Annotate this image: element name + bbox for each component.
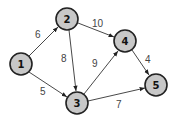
node-4: 4 <box>114 30 136 52</box>
node-label: 1 <box>18 59 25 70</box>
node-5: 5 <box>145 74 167 96</box>
edge-weight-3-4: 9 <box>92 58 98 69</box>
node-3: 3 <box>66 92 88 114</box>
edge-3-4 <box>84 51 118 94</box>
node-2: 2 <box>56 8 78 30</box>
edge-weight-2-3: 8 <box>61 53 67 64</box>
edge-weight-1-3: 5 <box>40 86 46 97</box>
edge-2-3 <box>69 30 76 91</box>
edge-weight-2-4: 10 <box>92 18 104 29</box>
graph-diagram: 6 5 8 10 9 7 4 1 2 3 4 5 <box>0 0 178 125</box>
edge-weight-3-5: 7 <box>116 99 122 110</box>
edge-weight-1-2: 6 <box>35 29 41 40</box>
node-label: 3 <box>74 98 81 109</box>
edge-labels: 6 5 8 10 9 7 4 <box>35 18 151 110</box>
edge-1-3 <box>29 72 67 97</box>
node-label: 4 <box>122 36 129 47</box>
edge-1-2 <box>29 27 58 56</box>
node-1: 1 <box>10 53 32 75</box>
node-label: 2 <box>64 14 71 25</box>
node-label: 5 <box>153 80 160 91</box>
edge-weight-4-5: 4 <box>145 54 151 65</box>
